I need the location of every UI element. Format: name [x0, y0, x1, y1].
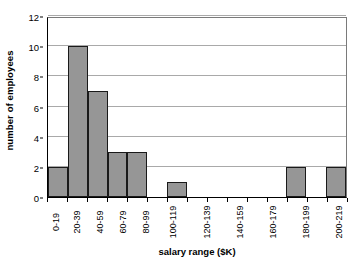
y-axis-tick-label: 8 [34, 72, 39, 83]
x-axis-tick-mark [67, 198, 68, 202]
x-axis-tick-label: 140-159 [234, 205, 244, 238]
bar[interactable] [286, 167, 306, 197]
x-axis-tick-mark [147, 198, 148, 202]
y-axis-tick-label: 0 [34, 193, 39, 204]
bar-slot [127, 18, 147, 197]
bars-layer [48, 18, 346, 197]
bar-chart: number of employees 024681012 0-1920-394… [0, 0, 360, 267]
x-axis-tick-labels: 0-1920-3940-5960-7980-99100-119120-13914… [47, 203, 347, 245]
y-axis-title: number of employees [0, 0, 18, 200]
x-axis-tick-mark [47, 198, 48, 202]
y-axis-tick-label: 6 [34, 102, 39, 113]
x-axis-tick-label: 100-119 [168, 206, 178, 238]
bar-slot [306, 18, 326, 197]
y-axis-tick-mark [40, 198, 43, 199]
y-axis-tick-label: 2 [34, 162, 39, 173]
x-axis-tick-mark [327, 198, 328, 202]
bar-slot [48, 18, 68, 197]
x-axis-label-slot: 120-139 [190, 203, 223, 245]
x-axis-tick-mark [167, 198, 168, 202]
y-axis-tick-label: 4 [34, 132, 39, 143]
y-axis-tick-mark [40, 167, 43, 168]
x-axis-title: salary range ($K) [47, 246, 347, 257]
y-axis-title-text: number of employees [4, 50, 15, 150]
x-axis-tick-mark [247, 198, 248, 202]
bar-slot [68, 18, 88, 197]
bar-slot [286, 18, 306, 197]
y-axis-tick-label: 12 [28, 12, 39, 23]
x-axis-label-slot: 40-59 [88, 203, 111, 245]
y-axis-tick-mark [40, 107, 43, 108]
x-axis-tick-label: 0-19 [51, 213, 61, 231]
bar[interactable] [48, 167, 68, 197]
bar-slot [266, 18, 286, 197]
x-axis-label-slot: 100-119 [157, 203, 189, 245]
x-axis-tick-label: 160-179 [267, 205, 277, 238]
bar-slot [147, 18, 167, 197]
y-axis-tick-mark [40, 77, 43, 78]
bar-slot [88, 18, 108, 197]
x-axis-label-slot: 200-219 [322, 203, 355, 245]
x-axis-label-slot: 60-79 [111, 203, 134, 245]
x-axis-tick-label: 60-79 [118, 210, 128, 233]
bar-slot [187, 18, 207, 197]
x-axis-tick-label: 200-219 [333, 205, 343, 238]
bar-slot [326, 18, 346, 197]
x-axis-tick-mark [107, 198, 108, 202]
x-axis-tick-mark [207, 198, 208, 202]
bar-slot [167, 18, 187, 197]
y-axis-tick-mark [40, 47, 43, 48]
x-axis-tick-mark [267, 198, 268, 202]
y-axis-tick-mark [40, 17, 43, 18]
x-axis-label-slot: 160-179 [256, 203, 289, 245]
x-axis-label-slot: 0-19 [47, 203, 65, 245]
x-axis-label-slot: 140-159 [223, 203, 256, 245]
bar[interactable] [108, 152, 128, 197]
x-axis-label-slot: 80-99 [134, 203, 157, 245]
bar[interactable] [88, 91, 108, 197]
bar[interactable] [68, 46, 88, 197]
x-axis-tick-label: 20-39 [72, 210, 82, 233]
bar-slot [247, 18, 267, 197]
plot-area [47, 17, 347, 198]
bar-slot [207, 18, 227, 197]
x-axis-tick-label: 120-139 [201, 205, 211, 238]
bar-slot [108, 18, 128, 197]
x-axis-tick-label: 40-59 [95, 210, 105, 233]
x-axis-tick-label: 180-199 [300, 205, 310, 238]
x-axis-tick-mark [307, 198, 308, 202]
bar[interactable] [326, 167, 346, 197]
x-axis-tick-mark [87, 198, 88, 202]
x-axis-label-slot: 20-39 [65, 203, 88, 245]
x-axis-tick-mark [347, 198, 348, 202]
x-axis-label-slot: 220-239 [355, 203, 360, 245]
bar[interactable] [167, 182, 187, 197]
x-axis-tick-mark [227, 198, 228, 202]
x-axis-tick-mark [187, 198, 188, 202]
x-axis-tick-mark [287, 198, 288, 202]
bar[interactable] [127, 152, 147, 197]
x-axis-tick-label: 80-99 [141, 210, 151, 233]
x-axis-tick-mark [127, 198, 128, 202]
y-axis-tick-mark [40, 137, 43, 138]
gridline [48, 15, 346, 16]
bar-slot [227, 18, 247, 197]
y-axis-tick-labels: 024681012 [18, 17, 43, 198]
x-axis-label-slot: 180-199 [289, 203, 322, 245]
y-axis-tick-label: 10 [28, 42, 39, 53]
